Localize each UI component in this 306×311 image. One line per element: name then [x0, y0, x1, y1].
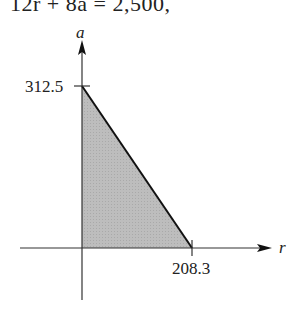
a-axis-label: a	[76, 23, 85, 42]
feasible-region-chart: a r 312.5 208.3	[0, 0, 306, 311]
y-intercept-label: 312.5	[25, 77, 63, 96]
x-intercept-label: 208.3	[172, 259, 210, 278]
r-axis-label: r	[279, 238, 286, 257]
